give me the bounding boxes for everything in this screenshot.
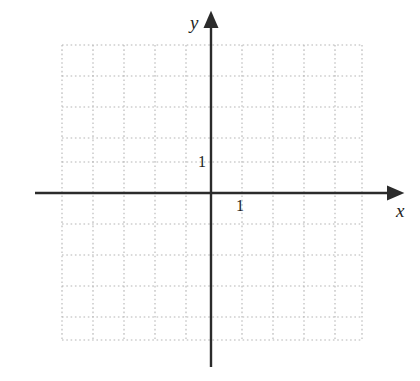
x-axis-label: x: [396, 201, 404, 220]
y-axis-tick-label-1: 1: [198, 154, 206, 170]
plot-canvas: [0, 0, 420, 381]
x-axis-tick-label-1: 1: [236, 198, 244, 214]
coordinate-grid-figure: y x 1 1: [0, 0, 420, 381]
y-axis-label: y: [190, 13, 198, 32]
